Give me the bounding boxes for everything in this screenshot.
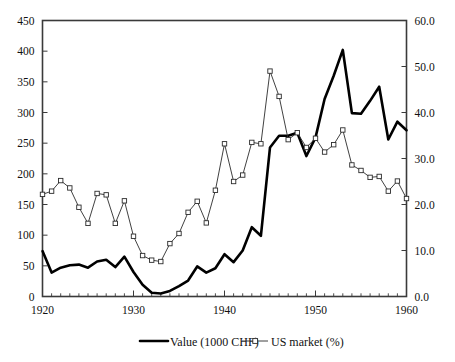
- series-marker-us-market: [377, 174, 381, 178]
- series-marker-us-market: [350, 163, 354, 167]
- series-marker-us-market: [49, 189, 53, 193]
- series-marker-us-market: [304, 145, 308, 149]
- series-marker-us-market: [195, 199, 199, 203]
- series-marker-us-market: [231, 179, 235, 183]
- y-axis-left-tick-label: 100: [17, 229, 35, 241]
- series-marker-us-market: [286, 137, 290, 141]
- series-marker-us-market: [295, 131, 299, 135]
- x-axis-tick-label: 1920: [31, 304, 54, 316]
- series-marker-us-market: [177, 231, 181, 235]
- series-marker-us-market: [250, 140, 254, 144]
- y-axis-left-tick-label: 350: [17, 76, 35, 88]
- y-axis-left-tick-label: 250: [17, 137, 35, 149]
- series-marker-us-market: [359, 168, 363, 172]
- series-line-value: [43, 50, 407, 293]
- series-marker-us-market: [268, 69, 272, 73]
- y-axis-left-tick-label: 150: [17, 199, 35, 211]
- x-axis-tick-label: 1960: [395, 304, 418, 316]
- series-marker-us-market: [404, 196, 408, 200]
- series-marker-us-market: [40, 192, 44, 196]
- series-marker-us-market: [113, 221, 117, 225]
- series-marker-us-market: [313, 136, 317, 140]
- series-marker-us-market: [86, 221, 90, 225]
- y-axis-right-tick-label: 50.0: [415, 61, 435, 73]
- legend-label-us-market: US market (%): [271, 335, 344, 349]
- y-axis-right-tick-label: 60.0: [415, 15, 435, 27]
- y-axis-left-tick-label: 50: [23, 260, 35, 272]
- series-marker-us-market: [77, 205, 81, 209]
- y-axis-right-tick-label: 10.0: [415, 245, 435, 257]
- y-axis-left-tick-label: 450: [17, 15, 35, 27]
- y-axis-right-tick-label: 20.0: [415, 199, 435, 211]
- series-marker-us-market: [332, 143, 336, 147]
- x-axis-tick-label: 1950: [304, 304, 327, 316]
- series-marker-us-market: [68, 186, 72, 190]
- series-marker-us-market: [241, 173, 245, 177]
- series-marker-us-market: [277, 94, 281, 98]
- series-marker-us-market: [59, 178, 63, 182]
- y-axis-right-tick-label: 40.0: [415, 107, 435, 119]
- legend-label-value: Value (1000 CHF): [170, 335, 259, 349]
- series-marker-us-market: [386, 189, 390, 193]
- series-marker-us-market: [322, 150, 326, 154]
- chart-figure: 1920193019401950196005010015020025030035…: [0, 0, 455, 362]
- series-marker-us-market: [168, 241, 172, 245]
- series-marker-us-market: [368, 175, 372, 179]
- series-marker-us-market: [140, 253, 144, 257]
- y-axis-left-tick-label: 400: [17, 45, 35, 57]
- y-axis-right-tick-label: 30.0: [415, 153, 435, 165]
- y-axis-left-tick-label: 200: [17, 168, 35, 180]
- series-marker-us-market: [150, 258, 154, 262]
- x-axis-tick-label: 1940: [213, 304, 236, 316]
- series-marker-us-market: [259, 142, 263, 146]
- legend-marker-us-market: [253, 339, 258, 344]
- series-marker-us-market: [213, 188, 217, 192]
- y-axis-left-tick-label: 0: [29, 291, 35, 303]
- series-marker-us-market: [395, 179, 399, 183]
- series-marker-us-market: [341, 128, 345, 132]
- series-marker-us-market: [186, 210, 190, 214]
- series-marker-us-market: [131, 234, 135, 238]
- y-axis-left-tick-label: 300: [17, 107, 35, 119]
- x-axis-tick-label: 1930: [122, 304, 145, 316]
- series-marker-us-market: [204, 221, 208, 225]
- line-chart: 1920193019401950196005010015020025030035…: [0, 0, 455, 362]
- series-marker-us-market: [159, 259, 163, 263]
- caption-fragment: [10, 354, 450, 362]
- series-marker-us-market: [95, 191, 99, 195]
- series-marker-us-market: [222, 142, 226, 146]
- y-axis-right-tick-label: 0.0: [415, 291, 430, 303]
- series-marker-us-market: [104, 193, 108, 197]
- series-marker-us-market: [122, 199, 126, 203]
